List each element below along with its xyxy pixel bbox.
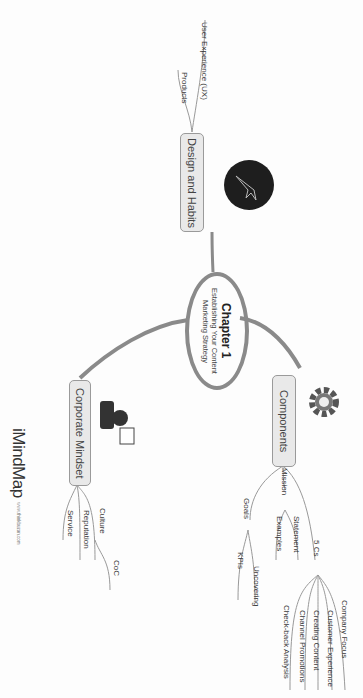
node-label: Corporate Mindset — [74, 388, 86, 479]
rocket-icon — [224, 160, 274, 210]
central-title: Chapter 1 — [219, 303, 233, 358]
node-company-focus[interactable]: Company Focus — [340, 600, 349, 658]
node-user-experience[interactable]: User Experience (UX) — [200, 22, 209, 100]
node-goals[interactable]: Goals — [242, 498, 251, 519]
node-reputation[interactable]: Reputation — [82, 510, 91, 549]
node-service[interactable]: Service — [66, 510, 75, 537]
node-kpis[interactable]: KPIs — [236, 552, 245, 569]
central-subtitle-2: Marketing Strategy — [201, 300, 210, 363]
node-check-back-analysis[interactable]: Check-back Analysis — [282, 605, 291, 679]
gear-icon — [306, 384, 342, 420]
node-customer-experience[interactable]: Customer Experience — [326, 610, 335, 687]
node-components[interactable]: Components — [272, 375, 296, 467]
imindmap-logo: iMindMap www.thinkbuzan.com — [8, 428, 28, 544]
node-coc[interactable]: CoC — [112, 560, 121, 576]
node-corporate-mindset[interactable]: Corporate Mindset — [69, 380, 91, 486]
businessman-icon — [98, 398, 138, 448]
central-node[interactable]: Chapter 1 Establishing Your Content Mark… — [185, 272, 249, 390]
node-design-and-habits[interactable]: Design and Habits — [180, 133, 204, 232]
node-products[interactable]: Products — [180, 72, 189, 104]
connector-lines — [0, 0, 363, 698]
node-channel-promotions[interactable]: Channel Promotions — [298, 610, 307, 682]
node-mission[interactable]: Mission — [280, 468, 289, 495]
node-statement[interactable]: Statement — [292, 516, 301, 552]
node-5cs[interactable]: 5 Cs — [312, 540, 321, 556]
logo-url: www.thinkbuzan.com — [16, 502, 21, 544]
node-creating-content[interactable]: Creating Content — [312, 610, 321, 670]
node-label: Components — [278, 390, 290, 452]
central-subtitle-1: Establishing Your Content — [210, 288, 219, 374]
node-examples[interactable]: Examples — [275, 516, 284, 551]
logo-brand: iMindMap — [9, 428, 28, 498]
node-uncovering[interactable]: Uncovering — [252, 566, 261, 606]
node-culture[interactable]: Culture — [98, 508, 107, 534]
node-label: Design and Habits — [186, 138, 198, 228]
